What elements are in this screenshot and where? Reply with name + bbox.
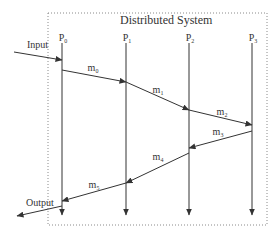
process-label-p2: P2 (186, 33, 195, 44)
message-label-m1: m1 (153, 85, 164, 96)
message-label-m0: m0 (88, 63, 99, 74)
output-label: Output (26, 198, 54, 208)
process-label-p3: P3 (249, 33, 258, 44)
message-label-m5: m5 (89, 180, 100, 191)
input-arrow (14, 52, 62, 60)
process-label-p1: P1 (123, 33, 132, 44)
distributed-system-frame (48, 13, 267, 225)
process-label-p0: P0 (59, 33, 68, 44)
input-label: Input (27, 40, 48, 50)
diagram-title: Distributed System (120, 14, 212, 26)
message-label-m3: m3 (213, 127, 224, 138)
message-label-m4: m4 (153, 152, 164, 163)
message-label-m2: m2 (217, 107, 228, 118)
